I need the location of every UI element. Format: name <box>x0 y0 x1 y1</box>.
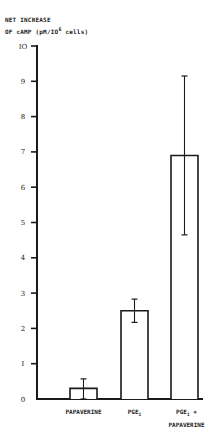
bar-chart: 0I23456789IO <box>0 0 223 446</box>
y-tick-label: 9 <box>21 78 25 86</box>
x-tick-label: PGEI <box>128 407 142 420</box>
y-tick-label: 7 <box>21 148 25 156</box>
y-tick-label: 6 <box>21 184 26 192</box>
y-tick-label: I <box>22 360 25 368</box>
y-tick-label: 5 <box>21 219 25 227</box>
y-tick-label: 4 <box>21 254 26 262</box>
y-tick-label: IO <box>19 43 28 51</box>
y-tick-label: 2 <box>21 325 25 333</box>
x-tick-label: PAPAVERINE <box>65 407 101 417</box>
x-tick-label: PGEI +PAPAVERINE <box>168 407 204 430</box>
bar <box>121 311 148 399</box>
y-tick-label: 0 <box>21 396 25 404</box>
y-tick-label: 3 <box>21 290 25 298</box>
y-tick-label: 8 <box>21 113 25 121</box>
